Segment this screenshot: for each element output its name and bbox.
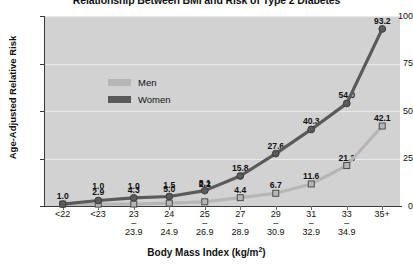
data-label-men: 6.7	[270, 181, 282, 190]
chart-figure: Relationship Between BMI and Risk of Typ…	[0, 0, 413, 266]
y-tick-label: 75	[375, 59, 413, 68]
data-label-men: 42.1	[374, 114, 391, 123]
data-label-women: 54.0	[338, 91, 355, 100]
data-label-women: 1.0	[57, 192, 69, 201]
y-tick-label: 25	[375, 154, 413, 163]
x-axis-label-suffix: )	[262, 247, 265, 258]
x-tick-label-primary: 35+	[375, 209, 390, 219]
y-tick-mark	[40, 16, 44, 17]
legend-label: Men	[138, 77, 156, 88]
x-tick-label: 35+	[360, 209, 404, 220]
data-label-women: 15.8	[232, 164, 249, 173]
chart-title: Relationship Between BMI and Risk of Typ…	[0, 0, 413, 8]
gridline	[45, 111, 400, 112]
x-tick-label-dash: –	[325, 220, 369, 227]
data-label-men: 11.6	[303, 172, 319, 181]
data-label-men: 21.3	[338, 154, 355, 163]
plot-area	[45, 16, 400, 206]
data-label-women: 4.3	[128, 186, 140, 195]
data-label-women: 2.9	[92, 188, 104, 197]
data-label-women: 93.2	[374, 17, 391, 26]
legend-item-women[interactable]: Women	[108, 93, 171, 106]
x-tick-label-primary: <23	[91, 209, 106, 219]
data-label-women: 5.0	[163, 185, 175, 194]
y-tick-mark	[40, 111, 44, 112]
y-tick-mark	[40, 206, 44, 207]
x-tick-label-secondary: 34.9	[325, 227, 369, 238]
data-label-men: 4.4	[234, 186, 246, 195]
y-axis-line	[44, 16, 45, 207]
x-axis-label-text: Body Mass Index (kg/m	[147, 247, 258, 258]
chart-legend: MenWomen	[108, 76, 171, 110]
x-axis-label: Body Mass Index (kg/m2)	[0, 246, 413, 258]
x-tick-label-primary: <22	[55, 209, 70, 219]
y-axis-label: Age-Adjusted Relative Risk	[7, 23, 18, 173]
legend-swatch-women	[108, 96, 131, 103]
legend-swatch-men	[108, 79, 131, 86]
gridline	[45, 64, 400, 65]
y-tick-mark	[40, 64, 44, 65]
gridline	[45, 16, 400, 17]
data-label-women: 40.3	[303, 117, 320, 126]
legend-item-men[interactable]: Men	[108, 76, 171, 89]
data-label-women: 27.6	[267, 142, 284, 151]
y-tick-mark	[40, 159, 44, 160]
legend-label: Women	[138, 94, 171, 105]
data-label-women: 8.1	[199, 179, 211, 188]
